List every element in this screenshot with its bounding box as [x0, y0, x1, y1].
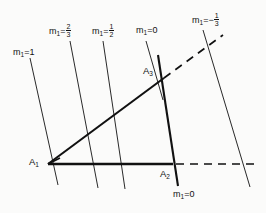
label-m1-eq-2-3: m1=23	[49, 23, 71, 38]
fraction-denominator: 2	[109, 31, 114, 38]
label-m1-eq-0-bottom-value: 0	[189, 189, 194, 199]
vertex-label-a2: A2	[160, 169, 170, 180]
label-m1-eq-minus-1-3-symbol: m	[192, 15, 200, 25]
label-m1-eq-1-2-equals: =	[103, 26, 108, 36]
label-m1-eq-1-2-fraction: 12	[109, 23, 114, 38]
label-m1-eq-minus-1-3: m1=−13	[192, 12, 219, 27]
triangle-side-hypotenuse	[48, 78, 164, 164]
label-m1-eq-1-value: 1	[29, 47, 34, 57]
vertex-label-a1: A1	[29, 157, 39, 168]
fraction-numerator: 1	[214, 12, 219, 20]
vertex-label-a2-subscript: 2	[166, 173, 170, 180]
line-m1-eq-2-3	[70, 41, 98, 188]
label-m1-eq-1-symbol: m	[13, 47, 21, 57]
label-m1-eq-2-3-equals: =	[60, 26, 65, 36]
fraction-denominator: 3	[66, 31, 71, 38]
label-m1-eq-0-bottom-symbol: m	[173, 189, 181, 199]
label-m1-eq-minus-1-3-fraction: 13	[214, 12, 219, 27]
fraction-numerator: 1	[109, 23, 114, 31]
label-m1-eq-0-top-value: 0	[152, 25, 157, 35]
label-m1-eq-0-top: m1=0	[136, 26, 157, 36]
label-m1-eq-2-3-fraction: 23	[66, 23, 71, 38]
diagram-svg	[0, 0, 266, 213]
label-m1-eq-2-3-symbol: m	[49, 26, 57, 36]
label-m1-eq-1: m1=1	[13, 48, 34, 58]
fraction-denominator: 3	[214, 20, 219, 27]
figure-canvas: m1=1 m1=23 m1=12 m1=0 m1=−13 m1=0 A1 A2 …	[0, 0, 266, 213]
vertex-label-a1-subscript: 1	[35, 161, 39, 168]
fraction-numerator: 2	[66, 23, 71, 31]
vertex-label-a3-subscript: 3	[149, 70, 153, 77]
vertex-label-a3: A3	[143, 66, 153, 77]
label-m1-eq-1-2: m1=12	[92, 23, 114, 38]
label-m1-eq-0-top-symbol: m	[136, 25, 144, 35]
dashed-ray-from-a3	[164, 35, 223, 78]
label-m1-eq-1-2-symbol: m	[92, 26, 100, 36]
label-m1-eq-minus-1-3-sign: −	[208, 15, 213, 25]
label-m1-eq-0-bottom: m1=0	[173, 190, 194, 200]
